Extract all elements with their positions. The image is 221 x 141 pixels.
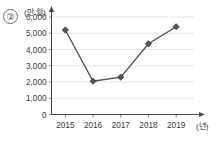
x-tick-label: 2018 <box>139 121 158 130</box>
data-point-marker <box>62 27 68 33</box>
axes <box>49 6 205 117</box>
y-axis-arrow <box>49 6 54 12</box>
x-tick-label: 2017 <box>112 121 131 130</box>
y-tick-label: 2,000 <box>26 78 47 87</box>
x-axis-arrow <box>199 112 205 117</box>
data-markers <box>62 24 179 85</box>
y-tick-label: 3,000 <box>26 62 47 71</box>
y-axis-tick-labels: 01,0002,0003,0004,0005,0006,000 <box>26 13 47 120</box>
y-tick-label: 0 <box>42 111 47 120</box>
series-line <box>65 27 176 81</box>
chart-figure: ② (만 원) (년) 01,0002,0003,0004,0005,0006,… <box>0 0 221 141</box>
y-tick-label: 4,000 <box>26 46 47 55</box>
line-chart-plot: 01,0002,0003,0004,0005,0006,000 20152016… <box>0 0 221 141</box>
data-point-marker <box>90 78 96 84</box>
x-tick-label: 2015 <box>56 121 75 130</box>
y-tick-label: 6,000 <box>26 13 47 22</box>
data-series <box>65 27 176 81</box>
data-point-marker <box>173 24 179 30</box>
x-tick-label: 2016 <box>84 121 103 130</box>
y-tick-label: 1,000 <box>26 94 47 103</box>
x-tick-label: 2019 <box>167 121 186 130</box>
y-tick-label: 5,000 <box>26 29 47 38</box>
x-axis-tick-labels: 20152016201720182019 <box>56 121 185 130</box>
